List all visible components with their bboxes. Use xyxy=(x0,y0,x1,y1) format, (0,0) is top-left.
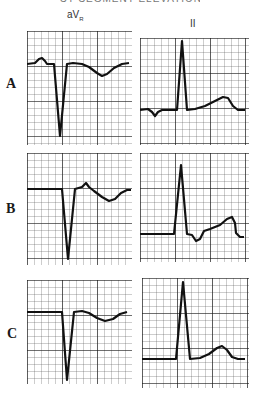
lead-label-avr-text: aV xyxy=(67,9,79,20)
ecg-panel-c-avr xyxy=(27,280,132,384)
row-label-c: C xyxy=(7,326,17,342)
ecg-panel-a-avr xyxy=(27,31,132,145)
ecg-panel-b-avr xyxy=(27,153,132,265)
row-label-b: B xyxy=(6,201,15,217)
lead-label-ii: II xyxy=(190,18,196,29)
ecg-panel-a-ii xyxy=(140,38,249,145)
row-label-a: A xyxy=(6,76,16,92)
cropped-header-title: ST SEGMENT ELEVATION xyxy=(60,0,200,3)
lead-label-avr-sub: R xyxy=(79,16,83,22)
ecg-panel-c-ii xyxy=(142,278,249,388)
lead-label-avr: aVR xyxy=(67,9,84,22)
ecg-panel-b-ii xyxy=(140,153,249,262)
